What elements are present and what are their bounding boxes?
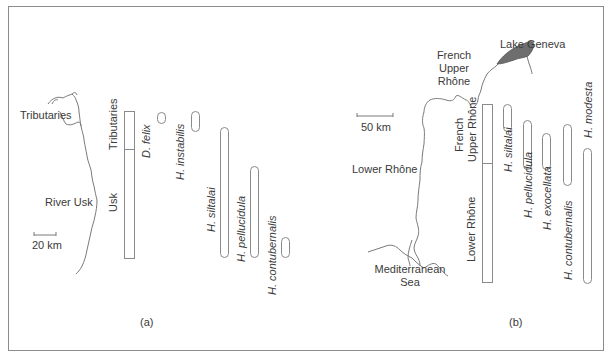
species-label-h-pellucidula-b: H. pellucidula	[523, 152, 534, 218]
species-label-h-contubernalis-b: H. contubernalis	[563, 201, 574, 281]
reach-bar-rhone	[482, 104, 493, 283]
species-label-h-contubernalis: H. contubernalis	[267, 216, 278, 296]
lower-rhone-label: Lower Rhône	[352, 164, 417, 175]
species-label-d-felix: D. felix	[141, 124, 152, 158]
scale-bar-a	[34, 232, 56, 236]
mediterranean-label-line1: Mediterranean	[372, 264, 448, 275]
upper-rhone-label-line3: Rhône	[432, 76, 476, 87]
range-h-contubernalis-b	[563, 124, 572, 186]
scale-label-a: 20 km	[32, 240, 62, 251]
species-label-h-siltalai: H. siltalai	[206, 187, 217, 232]
reach-label-french-upper-rhone-line1: French	[454, 118, 465, 152]
range-h-instabilis	[191, 111, 200, 132]
reach-divider	[483, 163, 492, 164]
range-h-siltalai	[220, 127, 229, 258]
reach-label-usk: Usk	[108, 193, 119, 212]
river-usk-label: River Usk	[45, 197, 93, 208]
species-label-h-exocellata: H. exocellata	[542, 166, 553, 230]
scale-label-b: 50 km	[361, 122, 391, 133]
panel-label-a: (a)	[140, 317, 153, 328]
reach-label-french-upper-rhone: Upper Rhône	[467, 97, 478, 162]
scale-bar-b	[357, 113, 393, 117]
reach-label-tributaries: Tributaries	[108, 98, 119, 150]
tributaries-map-label: Tributaries	[20, 110, 72, 121]
lake-geneva-label: Lake Geneva	[500, 39, 565, 50]
species-label-h-siltalai-b: H. siltalai	[503, 127, 514, 172]
reach-bar-usk	[124, 111, 135, 259]
upper-rhone-label-line1: French	[432, 50, 476, 61]
species-label-h-instabilis: H. instabilis	[175, 124, 186, 180]
range-h-modesta	[583, 148, 592, 284]
range-h-contubernalis	[281, 237, 290, 258]
species-label-h-modesta: H. modesta	[583, 82, 594, 138]
reach-divider	[125, 149, 134, 150]
range-h-exocellata	[542, 133, 551, 170]
upper-rhone-label-line2: Upper	[432, 63, 476, 74]
range-d-felix	[157, 112, 166, 124]
range-h-pellucidula	[250, 166, 259, 258]
species-label-h-pellucidula: H. pellucidula	[236, 196, 247, 262]
reach-label-lower-rhone: Lower Rhône	[466, 197, 477, 262]
mediterranean-label-line2: Sea	[372, 277, 448, 288]
panel-label-b: (b)	[509, 317, 522, 328]
